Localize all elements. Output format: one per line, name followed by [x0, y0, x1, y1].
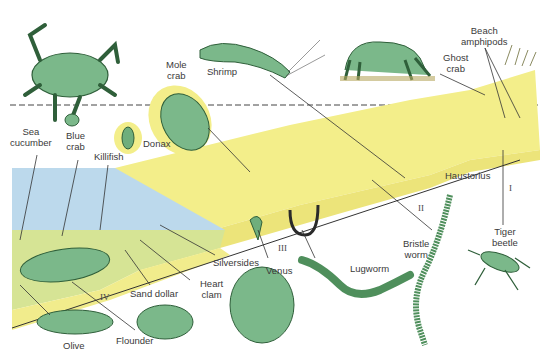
label-mole-crab: Mole crab — [166, 59, 187, 81]
label-lugworm: Lugworm — [350, 263, 389, 274]
label-flounder: Flounder — [116, 335, 154, 346]
ghost-crab-illustration — [340, 42, 435, 81]
label-olive: Olive — [63, 340, 85, 351]
label-sand-dollar: Sand dollar — [130, 288, 178, 299]
label-donax: Donax — [143, 138, 170, 149]
label-beach-amphipods: Beach amphipods — [461, 25, 507, 47]
label-tiger-beetle: Tiger beetle — [492, 226, 518, 248]
label-blue-crab: Blue crab — [66, 130, 85, 152]
beach-zonation-diagram: Sea cucumber Blue crab Killifish Donax M… — [0, 0, 547, 360]
label-sea-cucumber: Sea cucumber — [10, 126, 52, 148]
label-ghost-crab: Ghost crab — [443, 52, 468, 74]
zone-label-i: I — [509, 183, 512, 193]
label-killifish: Killifish — [94, 151, 124, 162]
label-venus: Venus — [266, 265, 292, 276]
blue-crab-illustration — [25, 25, 118, 126]
label-heart-clam: Heart clam — [200, 278, 223, 300]
label-silversides: Silversides — [213, 257, 259, 268]
tiger-beetle-illustration — [468, 248, 530, 290]
zone-label-iii: III — [278, 243, 287, 253]
zone-label-ii: II — [418, 203, 424, 213]
donax-illustration — [114, 122, 142, 154]
bristle-worm-illustration — [416, 195, 450, 345]
sand-dollar-illustration — [137, 305, 193, 339]
label-haustorius: Haustorius — [445, 170, 490, 181]
label-shrimp: Shrimp — [207, 66, 237, 77]
zone-label-iv: IV — [100, 292, 110, 302]
dune-grass — [505, 45, 536, 66]
heart-clam-illustration — [230, 267, 294, 343]
label-bristle-worm: Bristle worm — [403, 238, 429, 260]
